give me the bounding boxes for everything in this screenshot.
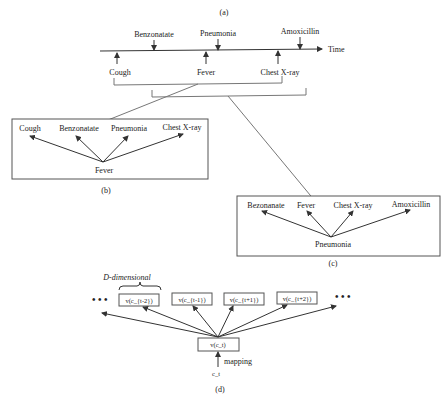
center-vector: v(c_t) xyxy=(210,341,226,349)
context-bezonanate: Bezonanate xyxy=(247,201,285,210)
caption-a: (a) xyxy=(220,8,229,17)
event-amoxicillin: Amoxicillin xyxy=(281,27,320,36)
vector-context-3: v(c_{t+2}) xyxy=(283,295,312,303)
dimension-label: D-dimensional xyxy=(102,273,151,282)
time-axis xyxy=(100,49,322,51)
context-benzonatate: Benzonatate xyxy=(59,124,99,133)
diagram-canvas: (a) Time Benzonatate Pneumonia Amoxicill… xyxy=(0,0,448,406)
context-chest-xray: Chest X-ray xyxy=(334,201,373,210)
dimension-brace xyxy=(119,282,161,290)
edge xyxy=(218,305,287,337)
panel-c: Bezonanate Fever Chest X-ray Amoxicillin… xyxy=(237,196,440,268)
edge xyxy=(102,313,218,337)
window-bracket-pneumonia xyxy=(152,88,306,97)
link-to-b xyxy=(108,84,198,120)
event-pneumonia: Pneumonia xyxy=(200,29,236,38)
caption-b: (b) xyxy=(101,186,111,195)
context-amoxicillin: Amoxicillin xyxy=(392,200,431,209)
event-chest-xray: Chest X-ray xyxy=(261,68,300,77)
event-fever: Fever xyxy=(197,68,216,77)
ellipsis-right: • • • xyxy=(335,291,351,302)
center-pneumonia: Pneumonia xyxy=(315,240,351,249)
edge xyxy=(143,307,218,337)
panel-d: D-dimensional • • • • • • v(c_{t-2}) v(c… xyxy=(92,273,351,394)
vector-context-2: v(c_{t+1}) xyxy=(230,296,259,304)
link-to-c xyxy=(228,96,320,207)
time-axis-label: Time xyxy=(328,45,345,54)
vector-context-1: v(c_{t-1}) xyxy=(178,296,205,304)
mapping-label: mapping xyxy=(224,357,252,366)
context-pneumonia: Pneumonia xyxy=(111,124,147,133)
caption-d: (d) xyxy=(215,385,225,394)
panel-b: Cough Benzonatate Pneumonia Chest X-ray … xyxy=(12,119,208,195)
edge xyxy=(218,306,336,337)
context-cough: Cough xyxy=(19,124,40,133)
vector-context-0: v(c_{t-2}) xyxy=(125,297,152,305)
event-benzonatate: Benzonatate xyxy=(134,30,174,39)
window-bracket-fever xyxy=(114,76,282,85)
center-fever: Fever xyxy=(95,166,114,175)
input-code: c_t xyxy=(212,370,220,377)
edge xyxy=(218,306,233,337)
event-cough: Cough xyxy=(109,68,130,77)
ellipsis-left: • • • xyxy=(92,294,108,305)
context-fever: Fever xyxy=(297,201,316,210)
caption-c: (c) xyxy=(329,259,338,268)
context-chest-xray: Chest X-ray xyxy=(163,123,202,132)
